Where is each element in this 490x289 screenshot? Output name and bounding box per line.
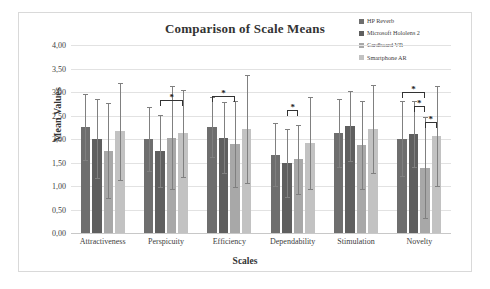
- y-axis-tick-label: 3,00: [52, 88, 66, 97]
- error-bar-cap-lower: [337, 167, 342, 168]
- significance-bracket-3: *: [402, 92, 425, 98]
- error-bar: [149, 107, 150, 171]
- error-bar-cap-lower: [296, 194, 301, 195]
- bar-group-attractiveness: Attractiveness: [71, 45, 134, 233]
- error-bar-cap-lower: [181, 177, 186, 178]
- error-bar: [373, 85, 374, 173]
- significance-bracket-2: *: [287, 110, 299, 116]
- significance-asterisk: *: [415, 99, 425, 108]
- error-bar: [235, 101, 236, 187]
- error-bar-cap-lower: [95, 178, 100, 179]
- error-bar-cap-upper: [118, 83, 123, 84]
- bar-group-dependability: Dependability: [261, 45, 324, 233]
- error-bar-cap-upper: [273, 123, 278, 124]
- y-axis-tick-label: 4,00: [52, 41, 66, 50]
- error-bar: [212, 97, 213, 157]
- error-bar-cap-upper: [181, 90, 186, 91]
- error-bar-cap-lower: [435, 186, 440, 187]
- error-bar-cap-lower: [348, 161, 353, 162]
- error-bar-cap-upper: [106, 103, 111, 104]
- error-bar: [350, 91, 351, 162]
- error-bar-cap-lower: [170, 189, 175, 190]
- y-axis-tick-label: 1,50: [52, 158, 66, 167]
- error-bar-cap-lower: [308, 189, 313, 190]
- error-bar-cap-upper: [337, 99, 342, 100]
- bar-group-novelty: Novelty: [388, 45, 451, 233]
- error-bar: [425, 117, 426, 218]
- y-axis-tick-label: 3,50: [52, 64, 66, 73]
- error-bar-cap-upper: [245, 75, 250, 76]
- x-axis-label: Scales: [19, 256, 471, 266]
- error-bar: [97, 99, 98, 178]
- significance-bracket-1: *: [212, 96, 235, 102]
- error-bar-cap-upper: [222, 102, 227, 103]
- error-bar-cap-lower: [222, 173, 227, 174]
- error-bar: [108, 103, 109, 198]
- error-bar-cap-lower: [273, 186, 278, 187]
- error-bar: [183, 90, 184, 177]
- x-axis-tick-label: Perspicuity: [134, 237, 197, 246]
- significance-asterisk: *: [213, 89, 234, 98]
- significance-bracket-5: *: [425, 122, 437, 128]
- error-bar: [224, 102, 225, 173]
- x-axis-tick-label: Efficiency: [198, 237, 261, 246]
- error-bar-cap-lower: [106, 198, 111, 199]
- bar-group-stimulation: Stimulation: [324, 45, 387, 233]
- y-axis-tick-label: 2,50: [52, 111, 66, 120]
- error-bar-cap-upper: [348, 91, 353, 92]
- error-bar-cap-upper: [308, 97, 313, 98]
- error-bar-cap-upper: [400, 101, 405, 102]
- significance-asterisk: *: [403, 85, 424, 94]
- error-bar-cap-lower: [371, 173, 376, 174]
- error-bar-cap-upper: [147, 107, 152, 108]
- y-axis-tick-label: 1,00: [52, 182, 66, 191]
- plot-area: 4,003,503,002,502,001,501,000,500,00Attr…: [71, 45, 451, 233]
- error-bar-cap-lower: [83, 160, 88, 161]
- bar-group-efficiency: Efficiency: [198, 45, 261, 233]
- significance-bracket-4: *: [414, 106, 426, 112]
- legend-item-label: Microsoft Hololens 2: [367, 30, 420, 36]
- error-bar: [85, 94, 86, 160]
- gridline: [71, 233, 451, 234]
- error-bar-cap-lower: [210, 157, 215, 158]
- chart-figure: Comparison of Scale Means HP ReverbMicro…: [18, 12, 472, 272]
- error-bar-cap-lower: [147, 171, 152, 172]
- y-axis-tick-label: 2,00: [52, 135, 66, 144]
- legend-swatch-icon: [359, 31, 364, 36]
- error-bar: [287, 129, 288, 197]
- error-bar-cap-lower: [158, 187, 163, 188]
- error-bar-cap-upper: [95, 99, 100, 100]
- error-bar: [437, 86, 438, 187]
- legend-item-0[interactable]: HP Reverb: [359, 18, 467, 24]
- significance-asterisk: *: [161, 93, 182, 102]
- error-bar-cap-upper: [360, 101, 365, 102]
- error-bar-cap-upper: [158, 115, 163, 116]
- error-bar-cap-upper: [296, 125, 301, 126]
- error-bar-cap-lower: [233, 187, 238, 188]
- significance-bracket-0: *: [160, 100, 183, 106]
- bar-group-perspicuity: Perspicuity: [134, 45, 197, 233]
- error-bar-cap-lower: [400, 176, 405, 177]
- error-bar-cap-upper: [371, 85, 376, 86]
- error-bar: [402, 101, 403, 175]
- x-axis-tick-label: Novelty: [388, 237, 451, 246]
- x-axis-tick-label: Attractiveness: [71, 237, 134, 246]
- error-bar: [120, 83, 121, 180]
- error-bar: [362, 101, 363, 188]
- error-bar: [298, 125, 299, 194]
- error-bar: [339, 99, 340, 167]
- error-bar-cap-lower: [118, 180, 123, 181]
- error-bar-cap-upper: [83, 94, 88, 95]
- legend-swatch-icon: [359, 19, 364, 24]
- error-bar-cap-lower: [285, 197, 290, 198]
- x-axis-tick-label: Dependability: [261, 237, 324, 246]
- legend-item-label: HP Reverb: [367, 18, 394, 24]
- significance-asterisk: *: [288, 103, 298, 112]
- y-axis-tick-label: 0,50: [52, 205, 66, 214]
- legend-item-1[interactable]: Microsoft Hololens 2: [359, 30, 467, 36]
- error-bar-cap-lower: [412, 167, 417, 168]
- error-bar-cap-lower: [245, 183, 250, 184]
- error-bar-cap-upper: [435, 86, 440, 87]
- significance-asterisk: *: [426, 115, 436, 124]
- error-bar: [275, 123, 276, 186]
